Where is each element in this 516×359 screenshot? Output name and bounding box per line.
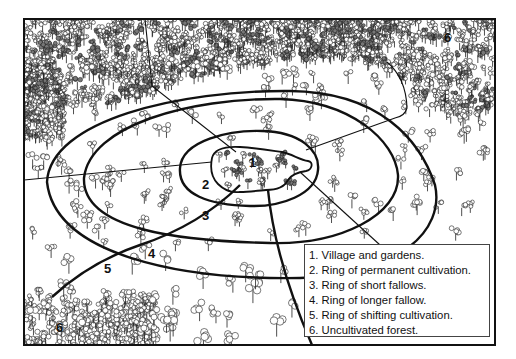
- legend-item-shifting-cultivation: 5. Ring of shifting cultivation.: [309, 308, 489, 323]
- zone-label-2: 2: [202, 177, 209, 192]
- zone-label-5: 5: [104, 261, 111, 276]
- legend: 1. Village and gardens. 2. Ring of perma…: [304, 244, 490, 337]
- zone-label-4: 4: [148, 246, 156, 261]
- zone-label-1: 1: [249, 155, 256, 170]
- legend-item-uncultivated-forest: 6. Uncultivated forest.: [309, 323, 489, 338]
- tree-icon: [141, 340, 150, 354]
- zone-label-6-top: 6: [444, 30, 451, 45]
- legend-item-village: 1. Village and gardens.: [309, 248, 489, 263]
- zone-label-3: 3: [202, 208, 209, 223]
- legend-item-longer-fallow: 4. Ring of longer fallow.: [309, 293, 489, 308]
- legend-item-permanent-cultivation: 2. Ring of permanent cultivation.: [309, 263, 489, 278]
- zone-label-6-bottom: 6: [56, 320, 63, 335]
- legend-item-short-fallows: 3. Ring of short fallows.: [309, 278, 489, 293]
